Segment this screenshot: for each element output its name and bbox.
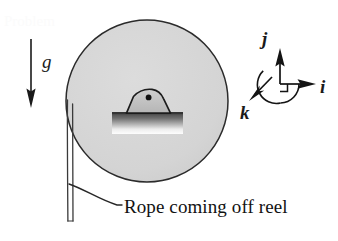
hub-bar — [112, 112, 183, 134]
axis-label-k: k — [240, 103, 250, 122]
axis-label-j: j — [262, 29, 267, 48]
axis-label-i: i — [320, 77, 325, 96]
right-angle-marker — [280, 84, 288, 92]
reel-diagram-figure: Problem — [0, 0, 338, 241]
gravity-arrow — [26, 39, 35, 108]
axis-j — [275, 48, 284, 84]
caption-leader — [69, 184, 122, 205]
coordinate-frame — [249, 48, 316, 103]
figure-caption: Rope coming off reel — [124, 196, 288, 218]
axis-k — [249, 77, 272, 101]
arc-icon — [257, 71, 280, 104]
arc-icon-lower — [281, 84, 299, 103]
gravity-label: g — [42, 52, 52, 71]
axle-dot — [146, 95, 152, 101]
